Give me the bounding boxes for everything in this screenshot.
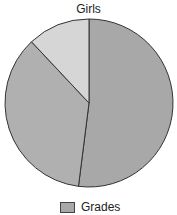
legend: Grades [60, 200, 120, 214]
pie-chart [0, 0, 177, 195]
legend-label: Grades [81, 200, 120, 214]
legend-swatch [60, 202, 75, 213]
pie-slice [78, 19, 173, 187]
